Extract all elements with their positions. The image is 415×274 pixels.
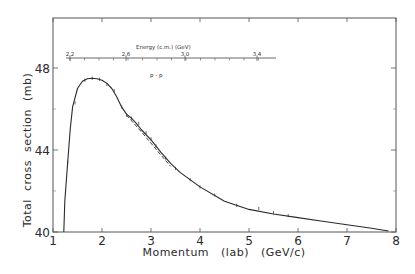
x-tick-label: 2 <box>98 234 106 248</box>
dashed-fit-curve <box>127 115 171 166</box>
x-tick-label: 8 <box>392 234 400 248</box>
energy-tick-label: 2.2 <box>66 51 75 57</box>
solid-fit-curve <box>64 78 389 232</box>
y-tick-label: 44 <box>35 144 50 158</box>
y-tick-label: 48 <box>35 62 50 76</box>
x-tick-label: 7 <box>343 234 351 248</box>
series-layer <box>64 77 389 232</box>
reaction-annotation: p - p <box>150 72 163 79</box>
energy-tick-label: 2.6 <box>122 51 131 57</box>
energy-axis: 2.22.63.03.4 <box>66 51 276 61</box>
axis-ticks: 12345678404448 <box>35 18 400 248</box>
energy-axis-title: Energy (c.m.) (GeV) <box>136 44 191 51</box>
energy-tick-label: 3.0 <box>181 51 190 57</box>
y-tick-label: 40 <box>35 226 50 240</box>
cross-section-chart: 2.22.63.03.4 12345678404448 p - p Energy… <box>0 0 415 274</box>
x-axis-title: Momentum (lab) (GeV/c) <box>142 246 305 259</box>
plot-border <box>53 18 396 232</box>
y-axis-title: Total cross section (mb) <box>21 73 34 229</box>
plot-frame <box>53 18 396 232</box>
energy-tick-label: 3.4 <box>253 51 262 57</box>
x-tick-label: 1 <box>49 234 57 248</box>
